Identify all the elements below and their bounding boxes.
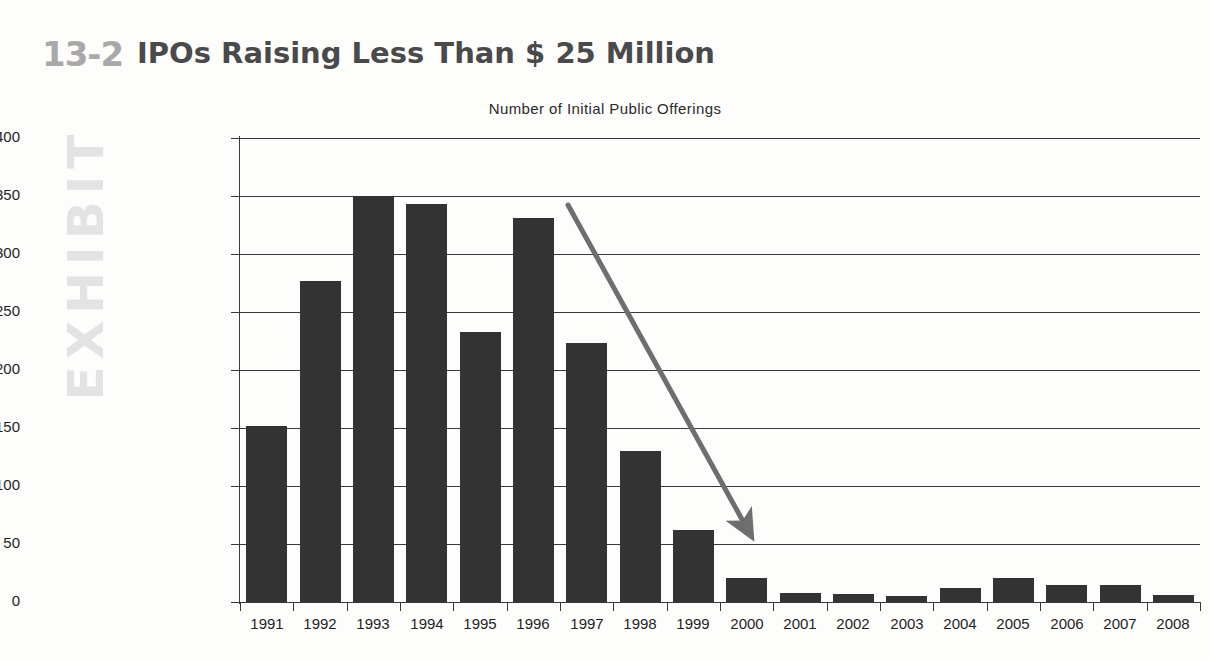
x-tick-label: 1999 <box>665 615 721 632</box>
x-tick-mark <box>1200 602 1201 611</box>
x-tick-mark <box>453 602 454 611</box>
x-tick-mark <box>293 602 294 611</box>
x-tick-label: 2003 <box>879 615 935 632</box>
x-tick-mark <box>720 602 721 611</box>
x-tick-mark <box>347 602 348 611</box>
y-tick-mark <box>231 602 240 603</box>
y-tick-label: 0 <box>0 592 20 609</box>
y-tick-mark <box>231 138 240 139</box>
x-tick-label: 2005 <box>985 615 1041 632</box>
bar <box>513 218 554 602</box>
x-tick-label: 2006 <box>1039 615 1095 632</box>
bar <box>566 343 607 602</box>
x-tick-mark <box>827 602 828 611</box>
y-tick-mark <box>231 370 240 371</box>
x-tick-label: 2002 <box>825 615 881 632</box>
x-tick-label: 1998 <box>612 615 668 632</box>
bar <box>460 332 501 602</box>
bar <box>620 451 661 602</box>
x-tick-label: 1994 <box>399 615 455 632</box>
x-tick-mark <box>1093 602 1094 611</box>
chart-subtitle: Number of Initial Public Offerings <box>0 100 1210 117</box>
x-tick-label: 1993 <box>345 615 401 632</box>
x-tick-mark <box>507 602 508 611</box>
y-tick-mark <box>231 312 240 313</box>
bar <box>780 593 821 602</box>
x-tick-mark <box>987 602 988 611</box>
y-tick-label: 100 <box>0 476 20 493</box>
y-tick-label: 400 <box>0 128 20 145</box>
x-tick-mark <box>1147 602 1148 611</box>
bar <box>940 588 981 602</box>
page-title: IPOs Raising Less Than $ 25 Million <box>137 36 715 70</box>
x-tick-label: 1991 <box>239 615 295 632</box>
bar <box>353 196 394 602</box>
x-tick-label: 2000 <box>719 615 775 632</box>
exhibit-watermark-label: EXHIBIT <box>57 109 115 419</box>
y-tick-mark <box>231 428 240 429</box>
x-tick-mark <box>1040 602 1041 611</box>
y-tick-label: 50 <box>0 534 20 551</box>
y-tick-mark <box>231 486 240 487</box>
y-tick-mark <box>231 196 240 197</box>
x-tick-label: 2008 <box>1145 615 1201 632</box>
y-tick-label: 150 <box>0 418 20 435</box>
x-tick-label: 1997 <box>559 615 615 632</box>
x-tick-label: 1995 <box>452 615 508 632</box>
x-tick-mark <box>933 602 934 611</box>
x-tick-label: 1996 <box>505 615 561 632</box>
bar <box>1153 595 1194 602</box>
x-tick-mark <box>400 602 401 611</box>
bar <box>673 530 714 602</box>
exhibit-page: EXHIBIT 13-2 IPOs Raising Less Than $ 25… <box>0 0 1210 660</box>
bar <box>406 204 447 602</box>
y-tick-label: 250 <box>0 302 20 319</box>
bar <box>1046 585 1087 602</box>
x-tick-mark <box>880 602 881 611</box>
y-tick-label: 300 <box>0 244 20 261</box>
x-tick-label: 2001 <box>772 615 828 632</box>
bar <box>993 578 1034 602</box>
x-tick-label: 1992 <box>292 615 348 632</box>
x-tick-label: 2004 <box>932 615 988 632</box>
bar <box>300 281 341 602</box>
x-tick-mark <box>240 602 241 611</box>
x-tick-label: 2007 <box>1092 615 1148 632</box>
x-tick-mark <box>667 602 668 611</box>
y-tick-label: 350 <box>0 186 20 203</box>
x-tick-mark <box>560 602 561 611</box>
bar <box>726 578 767 602</box>
y-tick-mark <box>231 254 240 255</box>
y-tick-mark <box>231 544 240 545</box>
bar <box>833 594 874 602</box>
plot-area <box>240 138 1200 602</box>
x-tick-mark <box>773 602 774 611</box>
exhibit-number: 13-2 <box>42 34 123 74</box>
bar <box>886 596 927 602</box>
x-tick-mark <box>613 602 614 611</box>
y-tick-label: 200 <box>0 360 20 377</box>
bar <box>246 426 287 602</box>
bar <box>1100 585 1141 602</box>
